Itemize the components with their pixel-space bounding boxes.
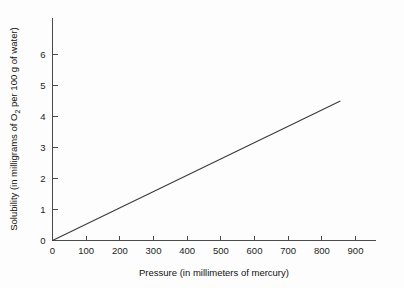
x-tick-label: 100 — [78, 245, 94, 256]
x-tick-label: 200 — [112, 245, 128, 256]
y-axis-title-text-after: per 100 g of water) — [8, 27, 19, 109]
x-tick-label: 700 — [280, 245, 296, 256]
data-series-group — [53, 101, 341, 241]
y-tick-label: 3 — [40, 142, 45, 153]
x-axis-title: Pressure (in millimeters of mercury) — [139, 267, 289, 278]
solubility-pressure-line-chart: 0100200300400500600700800900 0123456 Pre… — [0, 0, 404, 288]
data-series-line — [53, 101, 341, 241]
x-tick-label: 800 — [314, 245, 330, 256]
x-tick-label: 300 — [146, 245, 162, 256]
y-axis-title: Solubility (in milligrams of O2 per 100 … — [8, 27, 21, 231]
y-tick-label: 6 — [40, 49, 45, 60]
x-tick-label: 900 — [348, 245, 364, 256]
x-tick-label: 600 — [247, 245, 263, 256]
x-tick-label: 500 — [213, 245, 229, 256]
y-axis-ticks: 0123456 — [40, 49, 57, 246]
y-tick-label: 2 — [40, 173, 45, 184]
chart-container: 0100200300400500600700800900 0123456 Pre… — [0, 0, 404, 288]
y-axis-title-text-before: Solubility (in milligrams of O — [8, 114, 19, 231]
y-tick-label: 0 — [40, 235, 45, 246]
x-axis-ticks: 0100200300400500600700800900 — [50, 236, 364, 256]
y-tick-label: 4 — [40, 111, 45, 122]
y-tick-label: 5 — [40, 80, 45, 91]
y-tick-label: 1 — [40, 204, 45, 215]
x-tick-label: 0 — [50, 245, 55, 256]
x-tick-label: 400 — [179, 245, 195, 256]
axes-group — [53, 18, 377, 241]
